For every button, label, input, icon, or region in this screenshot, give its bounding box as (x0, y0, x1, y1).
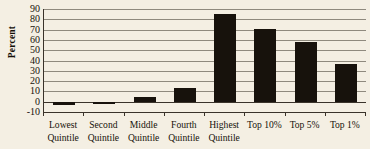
bar (53, 102, 75, 105)
x-axis-tick-mark (244, 112, 245, 116)
x-axis-tick-mark (43, 112, 44, 116)
category-label-line2: Quintile (43, 131, 83, 144)
bar (93, 102, 115, 104)
category-label-line1: Second (89, 119, 117, 130)
x-axis-tick-mark (325, 112, 326, 116)
y-axis-tick-label: -10 (27, 106, 40, 117)
bar (254, 29, 276, 102)
category-label-line1: Middle (130, 119, 158, 130)
bar (335, 64, 357, 102)
category-label-line1: Top 10% (247, 119, 282, 130)
bar (174, 88, 196, 101)
category-label-line1: Highest (209, 119, 239, 130)
category-label-line2: Quintile (204, 131, 244, 144)
bar-series (44, 9, 366, 112)
category-label-line1: Lowest (49, 119, 77, 130)
x-axis-tick-mark (204, 112, 205, 116)
category-label-line1: Top 1% (330, 119, 360, 130)
x-axis-tick-mark (365, 112, 366, 116)
x-axis-category-label: Top 1% (325, 118, 365, 131)
x-axis-category-labels: LowestQuintileSecondQuintileMiddleQuinti… (43, 118, 365, 148)
x-axis-tick-mark (124, 112, 125, 116)
category-label-line2: Quintile (164, 131, 204, 144)
y-axis-tick-labels: 9080706050403020100-10 (14, 8, 40, 112)
category-label-line1: Fourth (171, 119, 197, 130)
x-axis-tick-mark (164, 112, 165, 116)
plot-area (43, 9, 366, 112)
bar-chart: Percent 9080706050403020100-10 LowestQui… (0, 0, 370, 149)
category-label-line2: Quintile (83, 131, 123, 144)
bar (214, 14, 236, 102)
x-axis-category-label: LowestQuintile (43, 118, 83, 144)
x-axis-category-label: Top 10% (244, 118, 284, 131)
x-axis-category-label: MiddleQuintile (124, 118, 164, 144)
x-axis-category-label: SecondQuintile (83, 118, 123, 144)
category-label-line1: Top 5% (290, 119, 320, 130)
bar (134, 97, 156, 102)
x-axis-tick-mark (83, 112, 84, 116)
x-axis-tick-mark (285, 112, 286, 116)
bar (295, 42, 317, 102)
x-axis-category-label: HighestQuintile (204, 118, 244, 144)
x-axis-category-label: FourthQuintile (164, 118, 204, 144)
category-label-line2: Quintile (124, 131, 164, 144)
x-axis-category-label: Top 5% (285, 118, 325, 131)
